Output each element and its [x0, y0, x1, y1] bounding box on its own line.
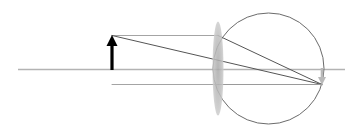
object-arrow	[107, 35, 118, 70]
image-arrow	[318, 68, 326, 85]
eye-sphere-outline	[213, 13, 324, 124]
object-arrow-shaft	[110, 46, 113, 70]
ray-parallel-ray-refracted	[218, 36, 322, 85]
optics-diagram-svg	[0, 0, 360, 137]
image-arrow-shaft	[321, 68, 324, 77]
converging-lens-ellipse	[213, 22, 224, 116]
ray-diagram-canvas	[0, 0, 360, 137]
